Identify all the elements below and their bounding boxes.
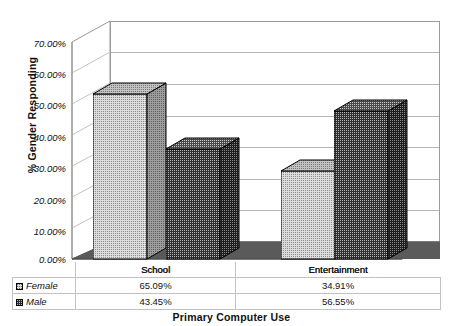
bar-female-school (93, 94, 147, 259)
cell-female-school: 65.09% (76, 278, 236, 294)
y-tick-label-30: 30.00% (18, 163, 66, 174)
y-tick-label-70: 70.00% (18, 38, 66, 49)
table-header-blank (13, 262, 76, 278)
y-tick-label-20: 20.00% (18, 195, 66, 206)
cell-male-entertainment: 56.55% (236, 294, 441, 310)
x-axis-title: Primary Computer Use (0, 311, 463, 323)
bar-male-entertainment (334, 111, 388, 259)
y-tick-label-50: 50.00% (18, 100, 66, 111)
legend-swatch-male-icon (16, 299, 23, 306)
y-tick-label-40: 40.00% (18, 132, 66, 143)
data-table: School Entertainment Female 65.09% 34.91… (12, 262, 441, 310)
cell-female-entertainment: 34.91% (236, 278, 441, 294)
bar-male-school (166, 149, 220, 259)
legend-item-female[interactable]: Female (13, 278, 76, 294)
legend-label-male: Male (26, 296, 47, 307)
legend-item-male[interactable]: Male (13, 294, 76, 310)
table-row: Male 43.45% 56.55% (13, 294, 441, 310)
legend-label-female: Female (26, 280, 58, 291)
chart-3d-column: % Gender Responding 70.00% 60.00% 50.00%… (0, 0, 463, 326)
cell-male-school: 43.45% (76, 294, 236, 310)
bar-female-entertainment (281, 171, 335, 259)
legend-swatch-female-icon (16, 283, 23, 290)
y-axis-title: % Gender Responding (26, 30, 40, 200)
y-tick-label-10: 10.00% (18, 226, 66, 237)
y-tick-label-60: 60.00% (18, 69, 66, 80)
table-row: Female 65.09% 34.91% (13, 278, 441, 294)
table-header-school: School (76, 262, 236, 278)
table-header-entertainment: Entertainment (236, 262, 441, 278)
table-header-row: School Entertainment (13, 262, 441, 278)
gridline-60 (111, 52, 439, 53)
